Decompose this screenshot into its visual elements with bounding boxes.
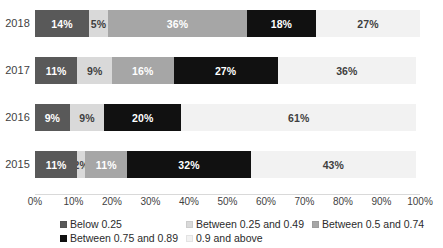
bar-row: 201511%2%11%32%43% [0,151,443,178]
x-axis-line [35,194,420,195]
legend-label: Between 0.75 and 0.89 [70,232,178,244]
category-label-2018: 2018 [0,10,35,37]
bar-segment[interactable]: 11% [85,151,127,178]
bar-segment[interactable]: 27% [174,57,278,84]
bar-segment[interactable]: 16% [112,57,174,84]
legend-label: Between 0.5 and 0.74 [322,218,424,230]
bar-segment[interactable]: 36% [108,10,247,37]
x-axis-tick-label: 40% [179,196,199,207]
x-axis-tick-label: 90% [371,196,391,207]
chart-legend: Below 0.25Between 0.25 and 0.49Between 0… [0,216,443,248]
legend-swatch-icon [60,235,67,242]
legend-swatch-icon [312,221,319,228]
category-label-2017: 2017 [0,57,35,84]
bar-segment[interactable]: 2% [77,151,85,178]
x-axis-tick-label: 50% [217,196,237,207]
bar-track: 9%9%20%61% [35,104,420,131]
legend-item[interactable]: Between 0.5 and 0.74 [312,218,424,230]
legend-label: Below 0.25 [70,218,122,230]
x-axis: 0%10%20%30%40%50%60%70%80%90%100% [35,196,420,210]
bar-row: 201711%9%16%27%36% [0,57,443,84]
legend-swatch-icon [186,221,193,228]
legend-label: 0.9 and above [196,232,263,244]
x-axis-tick-label: 10% [63,196,83,207]
bar-segment[interactable]: 9% [70,104,105,131]
bar-segment[interactable]: 5% [89,10,108,37]
category-label-2016: 2016 [0,104,35,131]
bar-row: 201814%5%36%18%27% [0,10,443,37]
bar-segment[interactable]: 18% [247,10,316,37]
plot-area: 201814%5%36%18%27%201711%9%16%27%36%2016… [0,6,443,194]
bar-segment[interactable]: 43% [251,151,417,178]
bar-segment[interactable]: 11% [35,151,77,178]
bar-segment[interactable]: 27% [316,10,420,37]
bar-track: 11%2%11%32%43% [35,151,420,178]
legend-item[interactable]: Below 0.25 [60,218,122,230]
x-axis-tick-label: 70% [294,196,314,207]
bar-segment[interactable]: 11% [35,57,77,84]
legend-item[interactable]: 0.9 and above [186,232,263,244]
legend-swatch-icon [60,221,67,228]
bar-segment[interactable]: 32% [127,151,250,178]
stacked-bar-chart: 201814%5%36%18%27%201711%9%16%27%36%2016… [0,0,443,248]
bar-track: 11%9%16%27%36% [35,57,420,84]
x-axis-tick-label: 100% [407,196,433,207]
legend-item[interactable]: Between 0.75 and 0.89 [60,232,178,244]
bar-segment[interactable]: 9% [77,57,112,84]
bar-row: 20169%9%20%61% [0,104,443,131]
legend-label: Between 0.25 and 0.49 [196,218,304,230]
x-axis-tick-label: 0% [28,196,42,207]
bar-track: 14%5%36%18%27% [35,10,420,37]
x-axis-tick-label: 60% [256,196,276,207]
bar-segment[interactable]: 14% [35,10,89,37]
bar-segment[interactable]: 61% [181,104,416,131]
category-label-2015: 2015 [0,151,35,178]
bar-segment[interactable]: 36% [278,57,417,84]
legend-item[interactable]: Between 0.25 and 0.49 [186,218,304,230]
bar-segment[interactable]: 9% [35,104,70,131]
x-axis-tick-label: 20% [102,196,122,207]
bar-segment[interactable]: 20% [104,104,181,131]
x-axis-tick-label: 80% [333,196,353,207]
legend-swatch-icon [186,235,193,242]
x-axis-tick-label: 30% [140,196,160,207]
